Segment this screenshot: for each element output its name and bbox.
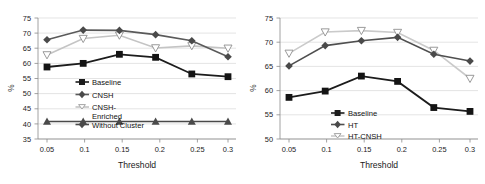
- legend-label: Baseline: [92, 78, 121, 87]
- open-triangle-down-marker-icon: [43, 52, 51, 59]
- filled-diamond-marker-icon: [224, 53, 232, 61]
- left-y-axis: [35, 18, 39, 139]
- filled-square-marker-icon: [286, 94, 293, 101]
- filled-square-marker-icon: [467, 108, 474, 115]
- filled-square-marker-icon: [152, 54, 159, 61]
- x-tick-label: 0.15: [357, 145, 371, 154]
- legend-item-cnsh[interactable]: CNSH: [76, 91, 114, 100]
- filled-diamond-marker-icon: [43, 36, 51, 44]
- filled-diamond-marker-icon: [321, 42, 329, 50]
- filled-square-marker-icon: [394, 78, 401, 85]
- y-tick-label: 35: [23, 135, 31, 144]
- series-baseline: [44, 51, 232, 80]
- filled-square-marker-icon: [358, 73, 365, 80]
- x-tick-label: 0.25: [190, 145, 204, 154]
- legend-label: HT-CNSH: [348, 132, 382, 141]
- left-y-tick-labels: 75 70 65 60 55 50 45 40 35: [23, 14, 31, 144]
- x-tick-label: 0.25: [432, 145, 446, 154]
- y-tick-label: 75: [265, 14, 273, 23]
- right-y-tick-labels: 75 70 65 60 55 50: [265, 14, 273, 144]
- y-tick-label: 65: [23, 44, 31, 53]
- x-tick-label: 0.3: [223, 145, 233, 154]
- legend-item-ht[interactable]: HT: [331, 121, 358, 130]
- y-tick-label: 50: [265, 135, 273, 144]
- filled-square-marker-icon: [44, 64, 51, 71]
- x-tick-label: 0.05: [282, 145, 296, 154]
- legend-label: Baseline: [348, 109, 377, 118]
- left-x-axis-title: Threshold: [118, 160, 156, 170]
- filled-square-marker-icon: [322, 88, 329, 95]
- legend-item-cnsh-enriched[interactable]: CNSH- Enriched: [76, 103, 122, 121]
- legend-item-baseline[interactable]: Baseline: [331, 109, 377, 118]
- filled-square-marker-icon: [335, 110, 341, 116]
- right-x-tick-labels: 0.05 0.1 0.15 0.2 0.25 0.3: [282, 145, 475, 154]
- x-tick-label: 0.2: [155, 145, 165, 154]
- legend-label-continued: Enriched: [92, 112, 122, 121]
- y-tick-label: 60: [23, 59, 31, 68]
- filled-diamond-marker-icon: [466, 57, 474, 65]
- y-tick-label: 55: [23, 74, 31, 83]
- y-tick-label: 60: [265, 86, 273, 95]
- y-tick-label: 50: [23, 89, 31, 98]
- two-panel-line-chart-figure: 75 70 65 60 55 50 45 40 35 0.05 0.1 0.15…: [0, 0, 485, 184]
- y-tick-label: 70: [265, 38, 273, 47]
- filled-square-marker-icon: [225, 73, 232, 80]
- x-tick-label: 0.3: [465, 145, 475, 154]
- right-chart-svg: 75 70 65 60 55 50 0.05 0.1 0.15 0.2 0.25…: [242, 0, 485, 184]
- filled-square-marker-icon: [188, 71, 195, 78]
- left-x-axis: [38, 139, 236, 143]
- y-tick-label: 40: [23, 120, 31, 129]
- x-tick-label: 0.2: [397, 145, 407, 154]
- legend-item-baseline[interactable]: Baseline: [76, 78, 122, 87]
- open-triangle-down-marker-icon: [466, 75, 474, 82]
- left-chart-svg: 75 70 65 60 55 50 45 40 35 0.05 0.1 0.15…: [0, 0, 242, 184]
- legend-label: CNSH: [92, 91, 114, 100]
- legend-label: HT: [348, 121, 358, 130]
- x-tick-label: 0.1: [321, 145, 331, 154]
- y-tick-label: 55: [265, 110, 273, 119]
- right-y-axis-title: %: [249, 84, 258, 91]
- y-tick-label: 45: [23, 104, 31, 113]
- x-tick-label: 0.1: [79, 145, 89, 154]
- x-tick-label: 0.05: [40, 145, 54, 154]
- filled-diamond-marker-icon: [334, 121, 341, 128]
- right-chart-legend: Baseline HT HT-CNSH: [331, 109, 382, 141]
- right-x-axis-title: Threshold: [360, 160, 398, 170]
- legend-item-ht-cnsh[interactable]: HT-CNSH: [331, 132, 382, 141]
- filled-diamond-marker-icon: [285, 62, 293, 70]
- y-tick-label: 75: [23, 14, 31, 23]
- series-ht-cnsh: [285, 27, 474, 82]
- right-chart-panel: 75 70 65 60 55 50 0.05 0.1 0.15 0.2 0.25…: [242, 0, 485, 184]
- legend-label: Without Cluster: [92, 121, 144, 130]
- series-baseline-right: [286, 73, 474, 115]
- left-y-axis-title: %: [7, 84, 16, 91]
- x-tick-label: 0.15: [115, 145, 129, 154]
- left-x-tick-labels: 0.05 0.1 0.15 0.2 0.25 0.3: [40, 145, 233, 154]
- filled-square-marker-icon: [80, 60, 87, 67]
- filled-diamond-marker-icon: [152, 31, 160, 39]
- right-y-axis: [277, 18, 281, 139]
- filled-diamond-marker-icon: [79, 91, 86, 98]
- y-tick-label: 70: [23, 29, 31, 38]
- filled-diamond-marker-icon: [358, 37, 366, 45]
- left-chart-panel: 75 70 65 60 55 50 45 40 35 0.05 0.1 0.15…: [0, 0, 242, 184]
- filled-square-marker-icon: [116, 51, 123, 58]
- open-triangle-down-marker-icon: [285, 50, 293, 57]
- filled-square-marker-icon: [430, 104, 437, 111]
- y-tick-label: 65: [265, 62, 273, 71]
